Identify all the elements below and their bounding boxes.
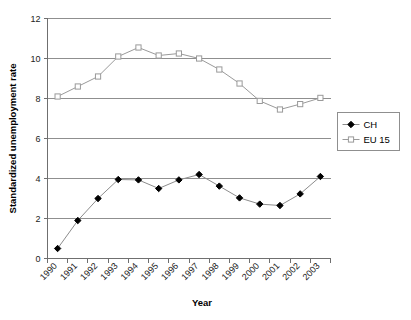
y-tick-label: 10	[30, 54, 40, 64]
data-point	[277, 202, 283, 208]
gridlines	[44, 19, 331, 259]
chart-figure: 0246810121990199119921993199419951996199…	[0, 0, 411, 320]
x-tick-label: 1999	[220, 261, 241, 282]
series-ch	[54, 171, 323, 251]
x-tick-label: 1992	[78, 261, 99, 282]
data-point	[135, 177, 141, 183]
series-eu-15	[55, 45, 323, 112]
x-tick-label: 1996	[159, 261, 180, 282]
data-point	[237, 81, 242, 86]
data-point	[257, 98, 262, 103]
data-point	[277, 107, 282, 112]
legend: CHEU 15	[338, 113, 400, 151]
unemployment-line-chart: 0246810121990199119921993199419951996199…	[0, 0, 411, 320]
x-axis-title: Year	[192, 297, 212, 308]
y-axis-title: Standardized unemployment rate	[7, 64, 18, 214]
data-point	[257, 201, 263, 207]
data-point	[318, 95, 323, 100]
data-point	[216, 183, 222, 189]
x-tick-label: 1994	[119, 261, 140, 282]
y-tick-label: 12	[30, 14, 40, 24]
y-tick-label: 0	[35, 254, 40, 264]
x-tick-label: 1998	[200, 261, 221, 282]
x-tick-label: 1990	[38, 261, 59, 282]
legend-label: EU 15	[364, 134, 390, 145]
data-point	[136, 45, 141, 50]
data-point	[196, 171, 202, 177]
legend-marker	[348, 137, 353, 142]
legend-label: CH	[364, 119, 378, 130]
x-tick-label: 2001	[260, 261, 281, 282]
x-tick-labels: 1990199119921993199419951996199719981999…	[38, 261, 322, 282]
data-point	[55, 94, 60, 99]
data-point	[95, 74, 100, 79]
data-point	[217, 67, 222, 72]
y-tick-label: 6	[35, 134, 40, 144]
x-tick-label: 2003	[301, 261, 322, 282]
data-point	[176, 177, 182, 183]
data-point	[75, 84, 80, 89]
x-tick-label: 1997	[179, 261, 200, 282]
data-point	[116, 54, 121, 59]
y-tick-label: 2	[35, 214, 40, 224]
y-tick-label: 8	[35, 94, 40, 104]
x-tick-label: 1991	[58, 261, 79, 282]
x-tick-label: 2000	[240, 261, 261, 282]
x-tick-label: 2002	[280, 261, 301, 282]
data-point	[54, 245, 60, 251]
data-point	[155, 185, 161, 191]
data-point	[197, 56, 202, 61]
data-point	[156, 53, 161, 58]
data-point	[236, 195, 242, 201]
data-point	[298, 102, 303, 107]
x-tick-label: 1993	[98, 261, 119, 282]
x-tick-label: 1995	[139, 261, 160, 282]
y-tick-label: 4	[35, 174, 40, 184]
data-point	[176, 51, 181, 56]
